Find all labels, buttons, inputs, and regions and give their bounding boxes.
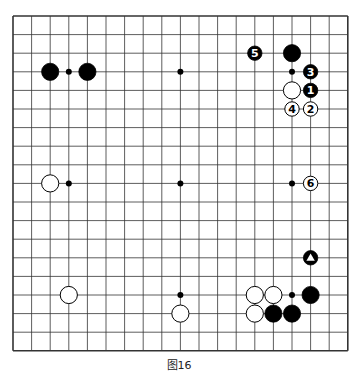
star-point [289, 292, 295, 298]
white-stone [42, 175, 59, 192]
black-stone [303, 251, 317, 265]
star-point [177, 292, 183, 298]
white-stone [246, 305, 263, 322]
black-stone [302, 286, 319, 303]
white-stone [246, 286, 263, 303]
star-point [177, 69, 183, 75]
diagram-caption: 图16 [0, 356, 358, 371]
black-stone [79, 63, 96, 80]
move-number: 3 [307, 66, 315, 79]
star-point [66, 180, 72, 186]
white-stone: 4 [285, 102, 299, 116]
black-stone [265, 305, 282, 322]
star-point [289, 69, 295, 75]
white-stone [265, 286, 282, 303]
white-stone [60, 286, 77, 303]
white-stone [172, 305, 189, 322]
go-board: 531426 [0, 0, 358, 371]
move-number: 1 [307, 84, 315, 97]
black-stone: 1 [303, 83, 317, 97]
black-stone [283, 305, 300, 322]
white-stone: 2 [303, 102, 317, 116]
white-stone [283, 82, 300, 99]
black-stone: 3 [303, 65, 317, 79]
star-point [177, 180, 183, 186]
move-number: 4 [288, 103, 296, 116]
star-point [289, 180, 295, 186]
white-stone: 6 [303, 176, 317, 190]
move-number: 5 [251, 47, 259, 60]
move-number: 6 [307, 177, 315, 190]
star-point [66, 69, 72, 75]
black-stone [42, 63, 59, 80]
black-stone [283, 45, 300, 62]
black-stone: 5 [248, 46, 262, 60]
move-number: 2 [307, 103, 315, 116]
